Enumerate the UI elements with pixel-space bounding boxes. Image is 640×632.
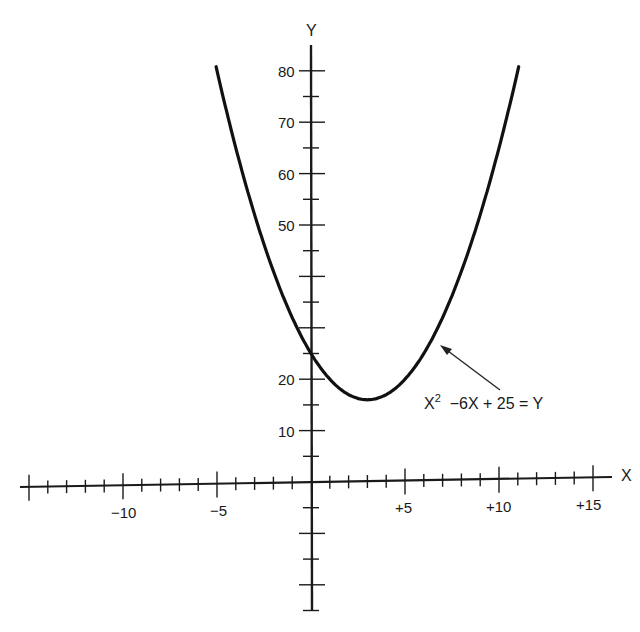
y-tick-label-20: 20 xyxy=(278,371,295,388)
y-axis xyxy=(299,45,325,611)
x-tick-label-pos10: +10 xyxy=(486,498,511,515)
y-axis-title: Y xyxy=(306,22,317,39)
x-tick-label-pos15: +15 xyxy=(576,496,601,513)
annotation-arrow xyxy=(440,345,500,390)
y-tick-label-10: 10 xyxy=(278,423,295,440)
x-tick-label-neg5: −5 xyxy=(210,502,227,519)
y-tick-label-60: 60 xyxy=(278,166,295,183)
equation-label: X2 −6X + 25 = Y xyxy=(424,392,544,412)
parabola-curve xyxy=(216,67,519,400)
x-axis-title: X xyxy=(621,467,632,484)
y-tick-label-70: 70 xyxy=(278,114,295,131)
parabola-chart: Y X 80 70 60 50 20 10 −10 −5 +5 +10 +15 … xyxy=(0,0,640,632)
y-tick-label-80: 80 xyxy=(278,63,295,80)
equation-base: X xyxy=(424,395,435,412)
x-tick-label-neg10: −10 xyxy=(111,504,136,521)
equation-rest: −6X + 25 = Y xyxy=(441,395,544,412)
x-axis xyxy=(20,465,612,501)
y-tick-label-50: 50 xyxy=(278,217,295,234)
x-tick-label-pos5: +5 xyxy=(395,499,412,516)
